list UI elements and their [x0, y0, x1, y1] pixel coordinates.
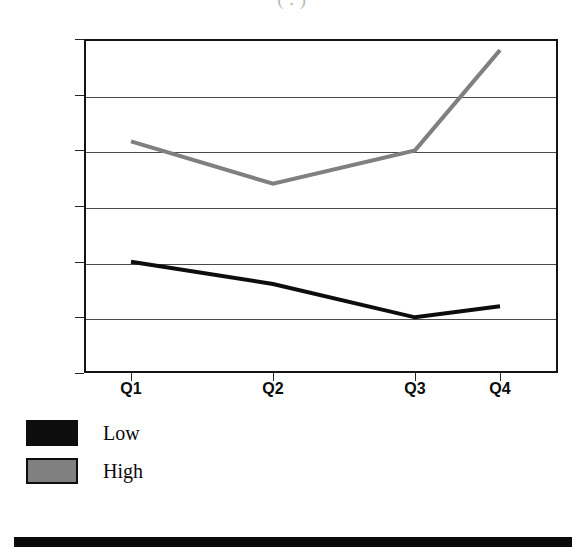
series-lines: [84, 39, 558, 373]
x-tick-label-q4: Q4: [465, 381, 535, 397]
series-line-low: [131, 262, 500, 318]
legend-swatch-high: [26, 458, 78, 484]
series-line-high: [131, 50, 500, 184]
x-tick-label-q2: Q2: [238, 381, 308, 397]
legend-item-low[interactable]: Low: [26, 414, 143, 452]
footer-rule: [14, 537, 572, 547]
x-tick-mark-q2: [273, 373, 274, 381]
y-tick-mark-60: [75, 39, 84, 40]
y-tick-mark-55: [75, 95, 84, 96]
legend-label-low: Low: [103, 423, 140, 443]
chart-figure: ( . ) 30354045505560 Q1Q2Q3Q4 LowHigh: [0, 0, 584, 552]
chart-title-remnant: ( . ): [0, 0, 584, 10]
y-tick-mark-30: [75, 373, 84, 374]
y-tick-mark-50: [75, 150, 84, 151]
chart-legend: LowHigh: [26, 414, 143, 490]
y-tick-mark-40: [75, 262, 84, 263]
y-tick-mark-45: [75, 206, 84, 207]
y-tick-mark-35: [75, 317, 84, 318]
x-tick-mark-q3: [415, 373, 416, 381]
x-tick-label-q1: Q1: [96, 381, 166, 397]
legend-swatch-low: [26, 420, 78, 446]
x-tick-mark-q1: [131, 373, 132, 381]
x-tick-mark-q4: [500, 373, 501, 381]
x-tick-label-q3: Q3: [380, 381, 450, 397]
legend-item-high[interactable]: High: [26, 452, 143, 490]
legend-label-high: High: [103, 461, 143, 481]
